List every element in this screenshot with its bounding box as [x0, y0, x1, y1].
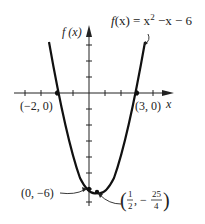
svg-text:2: 2	[128, 201, 133, 211]
vertex-leader	[100, 195, 121, 204]
svg-text:, −: , −	[134, 193, 147, 207]
x-axis	[14, 90, 174, 96]
root-left-label: (−2, 0)	[20, 99, 53, 113]
vertex-label: ( 1 2 , − 25 4 )	[120, 189, 170, 212]
svg-text:): )	[163, 189, 170, 212]
svg-text:(: (	[120, 189, 127, 212]
x-axis-label: x	[165, 97, 172, 111]
parabola-curve	[49, 42, 145, 193]
svg-text:25: 25	[152, 189, 162, 199]
y-intercept-point	[87, 187, 91, 191]
root-left-point	[55, 91, 59, 95]
y-intercept-leader	[60, 190, 84, 194]
svg-text:1: 1	[128, 189, 133, 199]
x-axis-arrow-icon	[162, 90, 174, 96]
y-axis-arrow-icon	[86, 25, 92, 37]
parabola-graph: f(x) = x2 −x − 6 f (x) x (−2, 0) (3, 0) …	[0, 0, 205, 224]
root-right-point	[135, 91, 139, 95]
y-intercept-label: (0, −6)	[21, 186, 54, 200]
root-right-label: (3, 0)	[135, 99, 161, 113]
y-axis	[86, 25, 92, 206]
equation-label: f(x) = x2 −x − 6	[111, 12, 193, 28]
svg-text:4: 4	[154, 201, 159, 211]
y-axis-label: f (x)	[62, 25, 82, 39]
